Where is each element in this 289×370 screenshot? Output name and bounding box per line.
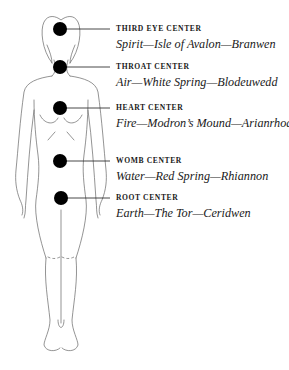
center-heading: ROOT CENTER xyxy=(116,194,251,202)
label-heart: HEART CENTER Fire—Modron’s Mound—Arianrh… xyxy=(116,104,289,130)
label-womb: WOMB CENTER Water—Red Spring—Rhiannon xyxy=(116,157,268,183)
label-root: ROOT CENTER Earth—The Tor—Ceridwen xyxy=(116,194,251,220)
third-eye-dot xyxy=(53,22,67,36)
center-heading: THROAT CENTER xyxy=(116,63,277,71)
label-throat: THROAT CENTER Air—White Spring—Blodeuwed… xyxy=(116,63,277,89)
center-heading: HEART CENTER xyxy=(116,104,289,112)
center-detail: Fire—Modron’s Mound—Arianrhod xyxy=(116,117,289,130)
female-body-outline xyxy=(0,0,289,370)
center-detail: Earth—The Tor—Ceridwen xyxy=(116,207,251,220)
center-detail: Spirit—Isle of Avalon—Branwen xyxy=(116,38,276,51)
womb-dot xyxy=(53,154,67,168)
root-dot xyxy=(54,191,68,205)
throat-dot xyxy=(53,60,67,74)
center-detail: Air—White Spring—Blodeuwedd xyxy=(116,76,277,89)
heart-dot xyxy=(53,101,67,115)
center-heading: WOMB CENTER xyxy=(116,157,268,165)
center-heading: THIRD EYE CENTER xyxy=(116,25,276,33)
center-detail: Water—Red Spring—Rhiannon xyxy=(116,170,268,183)
label-third-eye: THIRD EYE CENTER Spirit—Isle of Avalon—B… xyxy=(116,25,276,51)
